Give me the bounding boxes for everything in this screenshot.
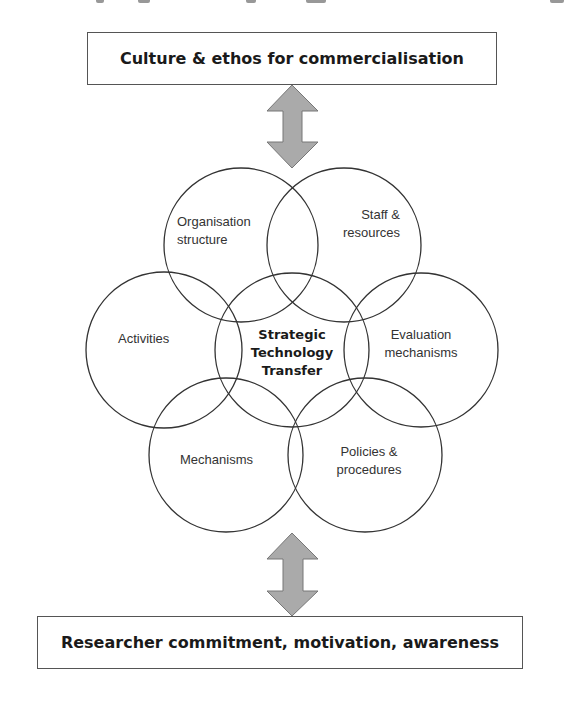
activities-label: Activities — [118, 330, 169, 348]
policies-procedures-label: Policies & procedures — [319, 443, 419, 479]
researcher-commitment-label: Researcher commitment, motivation, aware… — [61, 633, 499, 652]
staff-resources-line1: Staff & — [320, 206, 400, 224]
mechanisms-line1: Mechanisms — [180, 451, 253, 469]
researcher-commitment-box: Researcher commitment, motivation, aware… — [37, 616, 523, 669]
mechanisms-label: Mechanisms — [180, 451, 253, 469]
organisation-structure-line1: Organisation — [177, 213, 251, 231]
top-double-arrow-icon — [267, 85, 318, 168]
evaluation-mechanisms-label: Evaluation mechanisms — [371, 326, 471, 362]
center-line1: Strategic — [232, 326, 352, 344]
circle-staff-resources — [267, 168, 421, 322]
circle-activities — [86, 272, 242, 428]
culture-ethos-label: Culture & ethos for commercialisation — [120, 49, 464, 68]
center-line2: Technology — [232, 344, 352, 362]
culture-ethos-box: Culture & ethos for commercialisation — [87, 32, 497, 85]
strategic-technology-transfer-label: Strategic Technology Transfer — [232, 326, 352, 380]
evaluation-mechanisms-line2: mechanisms — [371, 344, 471, 362]
evaluation-mechanisms-line1: Evaluation — [371, 326, 471, 344]
policies-procedures-line2: procedures — [319, 461, 419, 479]
activities-line1: Activities — [118, 330, 169, 348]
staff-resources-line2: resources — [320, 224, 400, 242]
center-line3: Transfer — [232, 362, 352, 380]
organisation-structure-line2: structure — [177, 231, 251, 249]
policies-procedures-line1: Policies & — [319, 443, 419, 461]
bottom-double-arrow-icon — [267, 533, 318, 616]
staff-resources-label: Staff & resources — [320, 206, 400, 242]
organisation-structure-label: Organisation structure — [177, 213, 251, 249]
